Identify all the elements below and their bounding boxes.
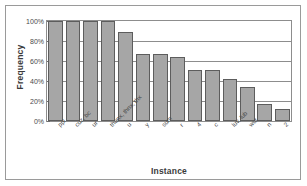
- y-axis-tick-label: 0%: [18, 118, 44, 125]
- bar-slot: [256, 21, 273, 121]
- y-axis-tick-label: 60%: [18, 58, 44, 65]
- y-axis-tick-label: 80%: [18, 38, 44, 45]
- bar: [136, 54, 151, 121]
- bar: [205, 70, 220, 121]
- bar-slot: [204, 21, 221, 121]
- bar-slot: [152, 21, 169, 121]
- tick-mark: [47, 121, 50, 122]
- bar: [153, 54, 168, 121]
- figure-frame: Frequency 0%20%40%60%80%100% pplcuz, bcu…: [5, 5, 301, 180]
- bar-slot: [273, 21, 290, 121]
- bar-slot: [134, 21, 151, 121]
- bar-slot: [186, 21, 203, 121]
- y-axis-tick-label: 100%: [18, 18, 44, 25]
- bar: [257, 104, 272, 121]
- bar-slot: [239, 21, 256, 121]
- bar: [188, 70, 203, 121]
- bar-series: [47, 21, 291, 121]
- bar: [83, 21, 98, 121]
- x-axis-tick-labels: pplcuz, bcurthanx, thnx, thxuysumr4cluv,…: [46, 123, 292, 167]
- plot-area: [46, 20, 292, 122]
- bar-slot: [47, 21, 64, 121]
- bar-slot: [221, 21, 238, 121]
- x-axis-title: Instance: [46, 166, 292, 176]
- x-axis-tick-label: r: [178, 122, 184, 128]
- bar: [170, 57, 185, 121]
- bar-slot: [169, 21, 186, 121]
- y-axis-tick-labels: 0%20%40%60%80%100%: [18, 20, 44, 122]
- bar: [48, 21, 63, 121]
- y-axis-tick-label: 40%: [18, 78, 44, 85]
- chart-screenshot: Frequency 0%20%40%60%80%100% pplcuz, bcu…: [0, 0, 307, 186]
- bar: [66, 21, 81, 121]
- bar-slot: [99, 21, 116, 121]
- bar: [101, 21, 116, 121]
- bar: [223, 79, 238, 121]
- y-axis-tick-label: 20%: [18, 98, 44, 105]
- bar-slot: [64, 21, 81, 121]
- bar-slot: [82, 21, 99, 121]
- bar: [275, 109, 290, 121]
